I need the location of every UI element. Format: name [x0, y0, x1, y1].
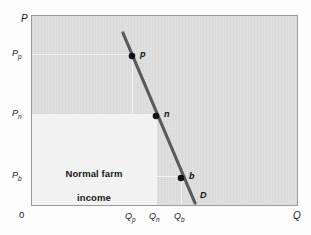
x-axis-label: Q: [293, 210, 301, 221]
point-label-b: b: [189, 171, 195, 181]
y-tick-pn-sub: n: [18, 113, 22, 120]
x-tick-qn-base: Q: [149, 211, 156, 221]
y-tick-pb-sub: b: [18, 175, 22, 182]
x-tick-qn-sub: n: [156, 216, 160, 223]
y-tick-label-pb: Pb: [12, 170, 22, 182]
data-point-p[interactable]: [129, 53, 136, 60]
demand-curve-label: D: [200, 190, 207, 200]
x-tick-label-qb: Qb: [174, 211, 185, 223]
x-tick-qb-sub: b: [181, 216, 185, 223]
y-axis-label: P: [21, 13, 28, 24]
y-tick-label-pp: Pp: [12, 48, 22, 60]
point-label-n: n: [164, 109, 170, 119]
x-tick-qp-base: Q: [125, 211, 132, 221]
point-label-p: p: [140, 49, 146, 59]
data-point-b[interactable]: [178, 175, 185, 182]
origin-label: 0: [19, 209, 24, 220]
x-tick-label-qp: Qp: [125, 211, 136, 223]
y-tick-pp-sub: p: [18, 53, 22, 60]
chart-figure: P Q 0 Normal farm income Pp: [0, 0, 311, 235]
x-tick-qp-sub: p: [132, 216, 136, 223]
x-tick-label-qn: Qn: [149, 211, 160, 223]
x-tick-qb-base: Q: [174, 211, 181, 221]
y-tick-label-pn: Pn: [12, 108, 22, 120]
data-point-n[interactable]: [153, 113, 160, 120]
